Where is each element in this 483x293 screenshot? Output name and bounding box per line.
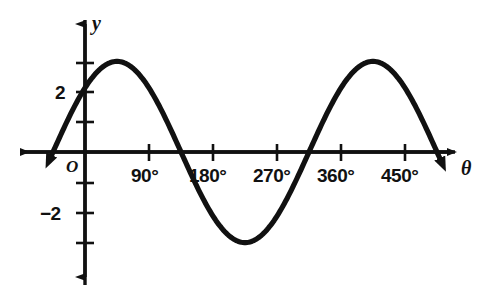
trig-graph-figure: y θ O 90° 180° 270° 360° 450° 2 −2 (0, 0, 483, 293)
origin-label: O (66, 158, 78, 175)
x-tick-label-90: 90° (131, 166, 158, 185)
x-tick-label-450: 450° (381, 166, 418, 185)
y-axis-label: y (92, 13, 101, 33)
x-axis-label: θ (461, 158, 471, 178)
graph-canvas (0, 0, 483, 293)
x-tick-label-270: 270° (253, 166, 290, 185)
x-tick-label-360: 360° (317, 166, 354, 185)
x-tick-label-180: 180° (189, 166, 226, 185)
y-tick-label-2: 2 (55, 83, 65, 102)
y-tick-label-neg2: −2 (40, 204, 61, 223)
